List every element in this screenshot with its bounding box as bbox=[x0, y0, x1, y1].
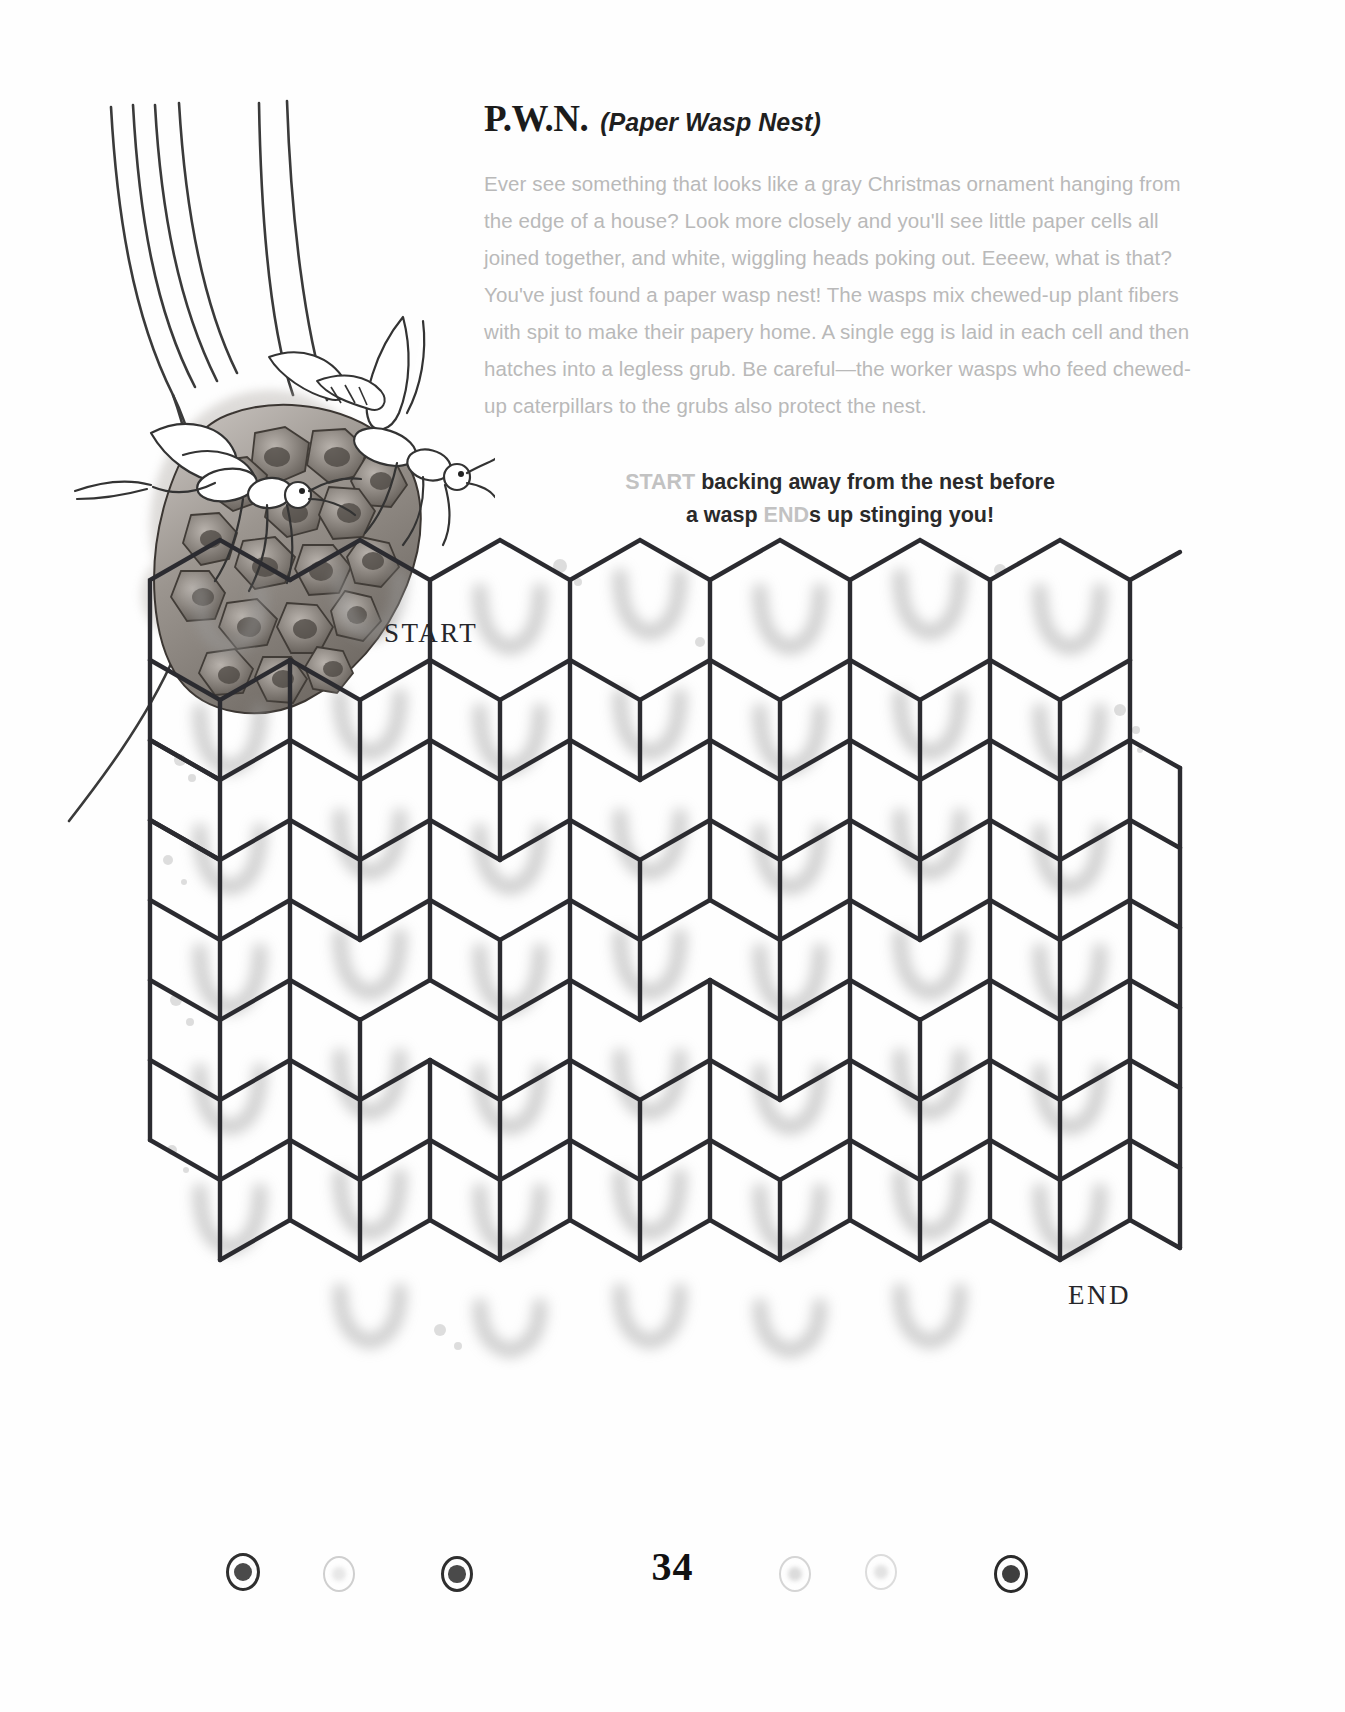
dot-6 bbox=[994, 1555, 1028, 1593]
maze-instructions: START backing away from the nest before … bbox=[484, 466, 1196, 532]
maze-start-label: START bbox=[384, 618, 478, 649]
article-header: P.W.N. (Paper Wasp Nest) Ever see someth… bbox=[484, 100, 1194, 424]
instruction-line-2: a wasp ENDs up stinging you! bbox=[484, 499, 1196, 532]
dot-core bbox=[788, 1567, 801, 1580]
maze-end-label: END bbox=[1068, 1280, 1131, 1311]
article-body: Ever see something that looks like a gra… bbox=[484, 165, 1196, 424]
article-paragraph: Ever see something that looks like a gra… bbox=[484, 165, 1196, 424]
dot-4 bbox=[779, 1556, 811, 1592]
footer-dot-row bbox=[0, 1536, 1345, 1626]
page-canvas: P.W.N. (Paper Wasp Nest) Ever see someth… bbox=[0, 0, 1345, 1712]
instruction-start-keyword: START bbox=[625, 470, 695, 494]
honeycomb-maze bbox=[140, 530, 1190, 1370]
title-abbreviation: P.W.N. bbox=[484, 100, 588, 137]
title-expansion: (Paper Wasp Nest) bbox=[600, 110, 820, 135]
dot-core bbox=[332, 1567, 345, 1580]
dot-2 bbox=[323, 1556, 355, 1592]
instruction-end-keyword: END bbox=[764, 503, 809, 527]
dot-core bbox=[874, 1565, 887, 1578]
instruction-line-1-rest: backing away from the nest before bbox=[695, 470, 1055, 494]
page-title: P.W.N. (Paper Wasp Nest) bbox=[484, 100, 1194, 137]
instruction-line-2-pre: a wasp bbox=[686, 503, 764, 527]
dot-5 bbox=[865, 1554, 897, 1590]
instruction-line-1: START backing away from the nest before bbox=[484, 466, 1196, 499]
maze-walls bbox=[150, 530, 1180, 1260]
dot-core bbox=[448, 1565, 466, 1583]
instruction-line-2-rest: s up stinging you! bbox=[809, 503, 994, 527]
dot-1 bbox=[226, 1553, 260, 1591]
dot-3 bbox=[441, 1556, 473, 1592]
